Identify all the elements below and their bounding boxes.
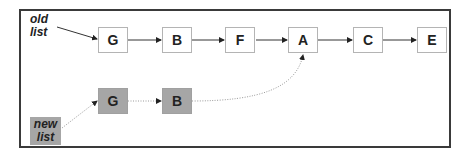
- edge-newlist-to-g2: [62, 101, 97, 128]
- old-list-label: old list: [30, 13, 48, 39]
- edge-b2-to-a-curve: [192, 55, 303, 101]
- edge-oldlist-to-g: [57, 27, 97, 39]
- node-label: F: [236, 32, 245, 48]
- node-old-e: E: [417, 27, 447, 53]
- node-old-c: C: [353, 27, 383, 53]
- new-list-label-line2: list: [37, 131, 54, 144]
- node-label: B: [172, 93, 182, 109]
- node-old-g: G: [98, 27, 128, 53]
- node-label: G: [108, 93, 119, 109]
- node-old-b: B: [162, 27, 192, 53]
- node-new-g: G: [98, 88, 128, 114]
- node-label: E: [427, 32, 436, 48]
- node-old-a: A: [288, 27, 318, 53]
- new-list-label: new list: [30, 117, 61, 145]
- node-new-b: B: [162, 88, 192, 114]
- node-label: C: [363, 32, 373, 48]
- node-old-f: F: [225, 27, 255, 53]
- node-label: B: [172, 32, 182, 48]
- node-label: G: [108, 32, 119, 48]
- node-label: A: [298, 32, 308, 48]
- old-list-label-line2: list: [30, 26, 48, 39]
- edges-layer: [0, 0, 470, 158]
